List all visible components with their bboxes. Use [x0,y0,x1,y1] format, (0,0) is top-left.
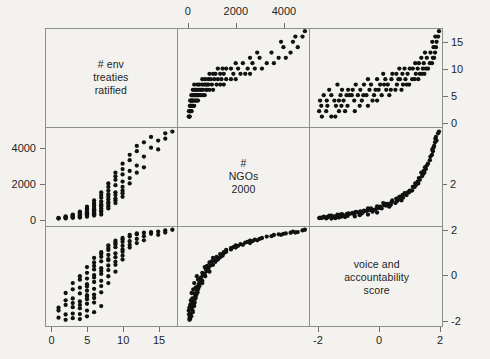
tick-label-left: 0 [0,214,36,226]
tick-label-bottom: 15 [153,334,165,346]
tick-label-right: 10 [451,63,463,75]
tick-mark-bottom [51,327,52,332]
variable-label-line: accountability [344,271,409,284]
tick-mark-right [443,230,448,231]
tick-label-bottom: 0 [376,334,382,346]
splom-scatter-panel-voice-vs-ngos [310,128,443,228]
tick-label-top: 0 [185,5,191,17]
tick-label-right-partial: 2 [450,178,456,190]
scatter-points [45,227,177,327]
tick-mark-right [443,42,448,43]
scatter-points [178,28,310,127]
splom-scatter-panel-voice-vs-treaties [310,28,443,128]
splom-scatter-panel-ngos-vs-voice [178,227,311,327]
tick-label-right: 0 [451,269,457,281]
tick-label-right: 5 [451,90,457,102]
splom-diagonal-panel-ngos: #NGOs2000 [178,128,311,228]
scatter-points [178,227,310,327]
tick-mark-bottom [159,327,160,332]
tick-label-bottom: 5 [84,334,90,346]
tick-mark-bottom [440,327,441,332]
splom-diagonal-panel-voice: voice andaccountabilityscore [310,227,443,327]
tick-label-top: 2000 [224,5,248,17]
variable-label-line: NGOs [229,170,259,183]
tick-mark-bottom [379,327,380,332]
panel-variable-label: #NGOs2000 [178,128,310,227]
tick-label-right: 0 [451,117,457,129]
tick-label-bottom: 10 [117,334,129,346]
tick-mark-bottom [318,327,319,332]
tick-mark-right [443,321,448,322]
variable-label-line: # env [98,58,124,71]
variable-label-line: voice and [354,258,400,271]
tick-mark-bottom [123,327,124,332]
tick-label-right: 2 [451,224,457,236]
splom-diagonal-panel-treaties: # envtreatiesratified [45,28,178,128]
tick-mark-right [443,123,448,124]
splom-scatter-panel-treaties-vs-voice [45,227,178,327]
tick-label-left: 2000 [0,178,36,190]
tick-label-top: 4000 [272,5,296,17]
tick-label-bottom: 2 [437,334,443,346]
variable-label-line: ratified [95,84,127,97]
scatter-points [45,128,177,227]
splom-scatter-panel-treaties-vs-ngos [45,128,178,228]
variable-label-line: # [241,157,247,170]
variable-label-line: 2000 [232,183,256,196]
variable-label-line: score [364,284,390,297]
tick-label-right: -2 [451,315,461,327]
tick-mark-bottom [87,327,88,332]
tick-mark-right [443,96,448,97]
tick-label-bottom: 0 [48,334,54,346]
tick-mark-right [443,184,447,185]
scatter-points [310,28,443,127]
tick-label-bottom: -2 [313,334,323,346]
variable-label-line: treaties [93,71,128,84]
splom-scatter-panel-ngos-vs-treaties [178,28,311,128]
panel-variable-label: voice andaccountabilityscore [310,227,443,327]
tick-mark-right [443,275,448,276]
tick-label-right: 15 [451,36,463,48]
panel-variable-label: # envtreatiesratified [45,28,177,127]
scatter-points [310,128,443,227]
tick-label-left: 4000 [0,142,36,154]
tick-mark-right [443,69,448,70]
scatterplot-matrix-figure: 020004000051015-20240002000015105020-22 … [0,0,490,359]
